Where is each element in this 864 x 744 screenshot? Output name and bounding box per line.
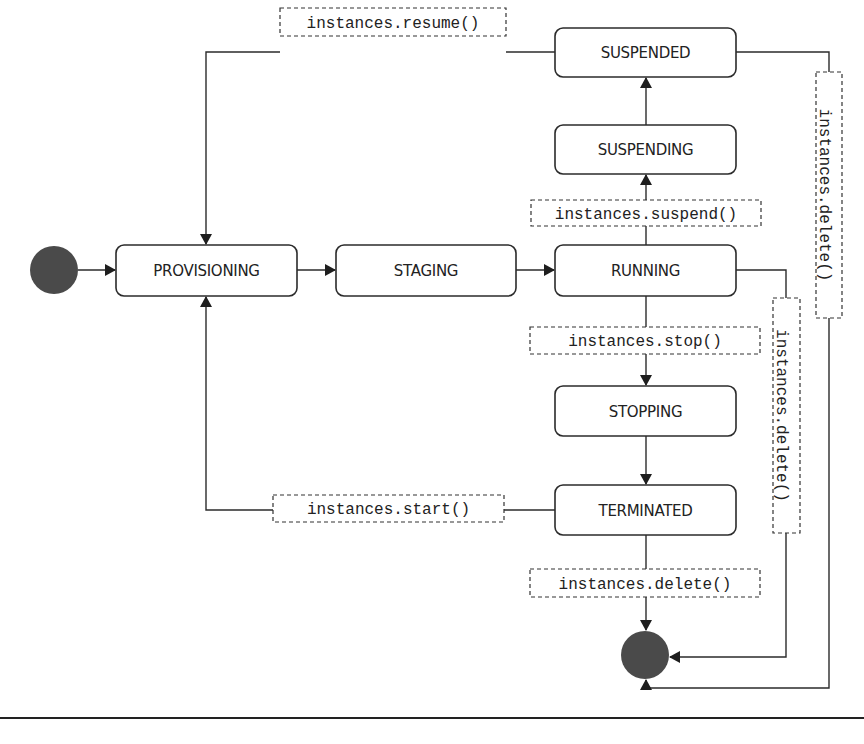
transition-text: instances.suspend() [555,206,737,224]
initial-state-node [30,246,78,294]
state-label: STAGING [394,262,458,280]
state-label: RUNNING [611,262,680,280]
state-label: SUSPENDING [598,141,694,159]
state-staging[interactable]: STAGING [336,245,516,296]
transition-label-start: instances.start() [273,495,504,522]
edge-running-to-delete-label [736,270,786,298]
state-terminated[interactable]: TERMINATED [555,485,736,535]
transition-text: instances.stop() [568,333,722,351]
transition-label-stop: instances.stop() [530,327,760,354]
state-provisioning[interactable]: PROVISIONING [116,245,297,296]
state-label: TERMINATED [598,502,693,520]
state-stopping[interactable]: STOPPING [555,386,736,436]
transition-text: instances.delete() [815,109,833,282]
state-running[interactable]: RUNNING [555,245,736,296]
edge-start-label-to-provisioning [206,297,273,510]
transition-text: instances.start() [307,501,470,519]
transition-text: instances.resume() [307,15,480,33]
state-label: PROVISIONING [153,262,259,280]
transition-label-delete-terminated: instances.delete() [530,569,760,597]
state-suspended[interactable]: SUSPENDED [555,28,736,77]
transition-text: instances.delete() [772,329,790,502]
final-state-node [621,631,669,679]
transition-label-resume: instances.resume() [280,8,506,36]
state-label: SUSPENDED [601,44,691,62]
state-suspending[interactable]: SUSPENDING [555,125,736,174]
edge-resume-label-to-provisioning [206,52,280,244]
state-label: STOPPING [609,403,682,421]
transition-label-delete-suspended: instances.delete() [815,72,842,318]
transition-text: instances.delete() [559,576,732,594]
transition-label-suspend: instances.suspend() [531,200,761,226]
transition-label-delete-running: instances.delete() [772,298,800,533]
edge-suspended-to-delete-label [736,52,829,72]
state-diagram: PROVISIONING STAGING RUNNING SUSPENDED S… [0,0,864,744]
